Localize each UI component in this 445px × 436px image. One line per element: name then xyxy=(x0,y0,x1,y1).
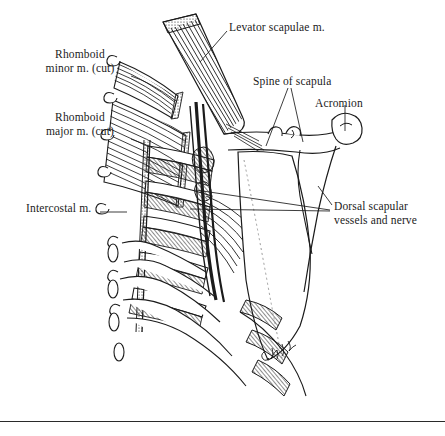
acromion-process xyxy=(332,113,362,144)
label-rhomboid-minor: Rhomboid minor m. (cut) xyxy=(18,48,142,75)
label-rhomboid-major: Rhomboid major m. (cut) xyxy=(18,111,142,138)
label-spine-of-scapula: Spine of scapula xyxy=(253,75,383,89)
label-acromion: Acromion xyxy=(315,97,415,111)
label-levator-scapulae: Levator scapulae m. xyxy=(229,21,369,35)
label-intercostal-muscle: Intercostal m. xyxy=(26,202,136,216)
label-dorsal-scapular-vessels-and-nerve: Dorsal scapular vessels and nerve xyxy=(334,200,444,227)
page-bottom-rule xyxy=(0,421,445,422)
leader-spine-left xyxy=(266,88,288,146)
figure-page: Rhomboid minor m. (cut) Rhomboid major m… xyxy=(0,0,445,436)
scapula-bone xyxy=(224,113,362,360)
